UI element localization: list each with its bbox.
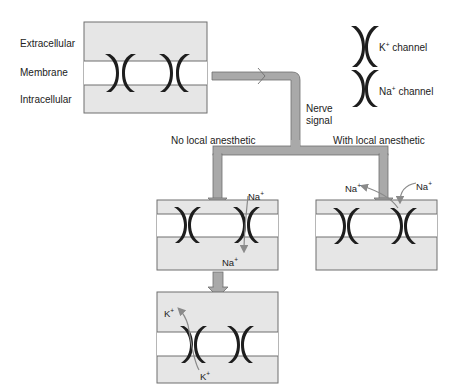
branch-label-with-anesthetic: With local anesthetic — [333, 135, 425, 147]
nerve-signal-label-2: signal — [306, 115, 332, 127]
branch-label-no-anesthetic: No local anesthetic — [171, 135, 256, 147]
with-anesthetic-panel — [316, 183, 437, 270]
ion-na-left-top: Na+ — [248, 188, 264, 203]
ion-na-right-b: Na+ — [416, 178, 432, 193]
ion-k-top: K+ — [164, 305, 174, 320]
label-extracellular: Extracellular — [20, 38, 75, 50]
legend-k-label: K+ channel — [379, 39, 427, 54]
top-membrane-panel — [84, 22, 207, 113]
legend-k-channel-icon — [351, 26, 379, 67]
repolarization-panel — [157, 292, 278, 383]
legend-na-channel-icon — [351, 70, 379, 107]
no-anesthetic-panel — [157, 196, 278, 270]
ion-na-right-a: Na+ — [345, 180, 361, 195]
diagram-canvas — [0, 0, 457, 388]
nerve-signal-label-1: Nerve — [306, 103, 333, 115]
legend-na-label: Na+ channel — [379, 83, 433, 98]
ion-na-left-bottom: Na+ — [222, 254, 238, 269]
label-membrane: Membrane — [20, 67, 68, 79]
na-approach-arrow — [400, 183, 416, 202]
ion-k-bottom: K+ — [200, 368, 210, 383]
label-intracellular: Intracellular — [20, 94, 72, 106]
